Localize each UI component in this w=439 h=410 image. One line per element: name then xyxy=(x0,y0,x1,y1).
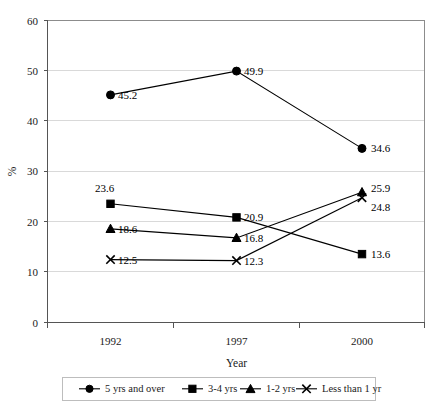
y-tick-label-0: 0 xyxy=(33,317,39,329)
line-chart: 60 50 40 30 20 10 0 % 1992 1997 2000 Yea… xyxy=(0,0,439,410)
series-1-value-1992: 45.2 xyxy=(118,89,137,101)
y-tick-label-20: 20 xyxy=(27,216,39,228)
legend-label-3: 1-2 yrs xyxy=(266,383,295,394)
x-tick-label-1992: 1992 xyxy=(100,335,122,347)
series-1-marker-1997 xyxy=(233,67,241,75)
series-2-marker-2000 xyxy=(358,250,365,257)
series-4-value-1997: 12.3 xyxy=(244,255,264,267)
series-2-value-1992: 23.6 xyxy=(95,182,115,194)
series-2-marker-1997 xyxy=(233,214,240,221)
series-2-value-1997: 20.9 xyxy=(244,211,264,223)
y-tick-label-30: 30 xyxy=(27,165,39,177)
x-tick-label-1997: 1997 xyxy=(226,335,249,347)
y-tick-label-40: 40 xyxy=(27,115,39,127)
series-2-marker-1992 xyxy=(107,200,114,207)
series-4-value-2000: 24.8 xyxy=(371,201,391,213)
x-tick-label-2000: 2000 xyxy=(351,335,374,347)
series-3-value-1997: 16.8 xyxy=(244,232,264,244)
series-1-value-2000: 34.6 xyxy=(371,142,391,154)
series-1-value-1997: 49.9 xyxy=(244,65,264,77)
series-1-marker-2000 xyxy=(358,144,366,152)
chart-canvas: 60 50 40 30 20 10 0 % 1992 1997 2000 Yea… xyxy=(0,0,439,410)
y-axis-title: % xyxy=(6,166,18,176)
legend-label-1: 5 yrs and over xyxy=(105,383,165,394)
circle-marker-icon xyxy=(86,385,93,392)
y-tick-marks xyxy=(44,21,48,323)
legend-label-4: Less than 1 yr xyxy=(322,383,382,394)
legend-item-3-4-yrs[interactable]: 3-4 yrs xyxy=(182,383,237,394)
square-marker-icon xyxy=(189,385,196,392)
y-tick-label-60: 60 xyxy=(27,15,39,27)
y-tick-label-50: 50 xyxy=(27,65,39,77)
y-tick-label-10: 10 xyxy=(27,266,39,278)
chart-legend: 5 yrs and over 3-4 yrs 1-2 yrs xyxy=(63,378,382,401)
x-axis-title: Year xyxy=(226,357,247,369)
series-1-marker-1992 xyxy=(107,91,115,99)
series-3-value-1992: 18.6 xyxy=(118,223,138,235)
legend-label-2: 3-4 yrs xyxy=(208,383,237,394)
series-3-value-2000: 25.9 xyxy=(371,182,391,194)
series-2-value-2000: 13.6 xyxy=(371,248,391,260)
x-tick-marks xyxy=(48,323,425,328)
series-4-value-1992: 12.5 xyxy=(118,254,138,266)
